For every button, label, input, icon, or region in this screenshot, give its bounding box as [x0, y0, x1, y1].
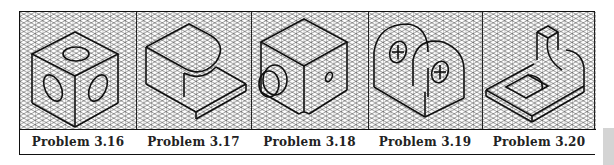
panel-problem-3-19: Problem 3.19	[368, 12, 482, 154]
panel-problem-3-20: Problem 3.20	[482, 12, 596, 154]
isometric-drawing-3-18	[251, 12, 368, 132]
problem-figure-frame: Problem 3.16 Problem 3.17	[19, 11, 595, 155]
panel-problem-3-17: Problem 3.17	[136, 12, 251, 154]
isometric-drawing-3-16	[20, 12, 136, 132]
caption-problem-3-17: Problem 3.17	[136, 129, 251, 154]
panel-problem-3-16: Problem 3.16	[20, 12, 136, 154]
caption-problem-3-19: Problem 3.19	[368, 129, 482, 154]
isometric-drawing-3-19	[368, 12, 482, 132]
caption-problem-3-20: Problem 3.20	[482, 129, 596, 154]
caption-problem-3-16: Problem 3.16	[20, 129, 136, 154]
caption-problem-3-18: Problem 3.18	[251, 129, 368, 154]
isometric-drawing-3-17	[136, 12, 251, 132]
side-page-tab	[603, 128, 614, 165]
isometric-drawing-3-20	[482, 12, 596, 132]
panel-problem-3-18: Problem 3.18	[251, 12, 368, 154]
